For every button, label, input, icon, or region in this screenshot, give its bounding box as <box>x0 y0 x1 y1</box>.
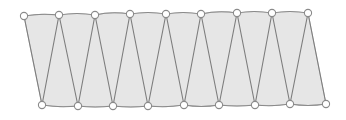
joint-node-t9 <box>304 9 311 16</box>
joint-node-b3 <box>109 102 116 109</box>
joint-node-b6 <box>215 101 222 108</box>
joint-node-t6 <box>197 10 204 17</box>
joint-node-t3 <box>91 11 98 18</box>
joint-node-b5 <box>180 101 187 108</box>
joint-node-t4 <box>126 10 133 17</box>
joint-node-t8 <box>268 9 275 16</box>
joint-node-b1 <box>38 101 45 108</box>
joint-node-t5 <box>162 10 169 17</box>
joint-node-b4 <box>144 102 151 109</box>
truss-lattice-diagram <box>0 0 346 120</box>
joint-node-b2 <box>74 102 81 109</box>
joint-node-b9 <box>322 100 329 107</box>
joint-node-b8 <box>286 100 293 107</box>
figure-canvas <box>0 0 346 120</box>
joint-node-t7 <box>233 9 240 16</box>
joint-node-b7 <box>251 101 258 108</box>
joint-node-t2 <box>55 11 62 18</box>
joint-node-t1 <box>20 12 27 19</box>
